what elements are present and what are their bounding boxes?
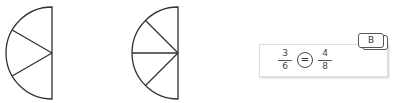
right-semicircle-4-sectors bbox=[132, 7, 178, 99]
left-semicircle-3-sectors bbox=[6, 7, 52, 99]
numerator: 3 bbox=[278, 48, 292, 61]
denominator: 6 bbox=[278, 61, 292, 72]
speech-bubble-label: B bbox=[358, 33, 384, 48]
fraction-left: 3 6 bbox=[278, 48, 292, 72]
denominator: 8 bbox=[318, 61, 332, 72]
fraction-right: 4 8 bbox=[318, 48, 332, 72]
equals-circle-icon: = bbox=[297, 52, 313, 68]
equation-box: 3 6 = 4 8 B bbox=[259, 44, 388, 77]
numerator: 4 bbox=[318, 48, 332, 61]
